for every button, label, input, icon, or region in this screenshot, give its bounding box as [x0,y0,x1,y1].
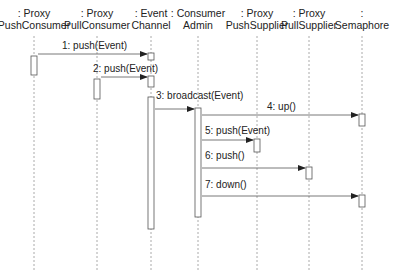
activation-bar-eventchannel [148,53,154,60]
lifeline-class-name: PullSupplier [281,19,337,31]
lifeline-object-name: : Consumer [171,7,225,19]
sequence-diagram-canvas [0,0,396,280]
lifeline-object-name: : Proxy [226,7,288,19]
activation-bar-eventchannel [148,97,154,229]
lifeline-header-pushsupplier: : ProxyPushSupplier [226,7,288,31]
activation-bar-pullsupplier [306,167,312,179]
lifeline-object-name: : [335,7,389,19]
activations [31,53,365,229]
activation-bar-semaphore [359,114,365,126]
message-label-4: 4: up() [267,101,296,112]
activation-bar-pushsupplier [254,139,260,152]
lifeline-class-name: Semaphore [335,19,389,31]
lifeline-header-pullsupplier: : ProxyPullSupplier [281,7,337,31]
lifeline-object-name: : Event [131,7,170,19]
activation-bar-consumeradmin [195,108,201,217]
message-label-6: 6: push() [205,150,244,161]
lifeline-class-name: PullConsumer [64,19,130,31]
lifeline-header-semaphore: :Semaphore [335,7,389,31]
lifeline-object-name: : Proxy [281,7,337,19]
message-label-5: 5: push(Event) [205,125,270,136]
lifeline-class-name: Admin [171,19,225,31]
lifeline-object-name: : Proxy [0,7,70,19]
message-label-7: 7: down() [205,179,247,190]
lifeline-class-name: PushConsumer [0,19,70,31]
lifeline-header-consumeradmin: : ConsumerAdmin [171,7,225,31]
lifeline-header-pullconsumer: : ProxyPullConsumer [64,7,130,31]
message-label-2: 2: push(Event) [93,63,158,74]
lifeline-class-name: Channel [131,19,170,31]
activation-bar-pushconsumer [31,56,37,75]
activation-bar-semaphore [359,195,365,207]
message-label-3: 3: broadcast(Event) [156,90,243,101]
lifeline-class-name: PushSupplier [226,19,288,31]
lifeline-object-name: : Proxy [64,7,130,19]
activation-bar-pullconsumer [94,79,100,99]
lifeline-header-pushconsumer: : ProxyPushConsumer [0,7,70,31]
message-label-1: 1: push(Event) [62,40,127,51]
lifeline-header-eventchannel: : EventChannel [131,7,170,31]
activation-bar-eventchannel [148,76,154,87]
